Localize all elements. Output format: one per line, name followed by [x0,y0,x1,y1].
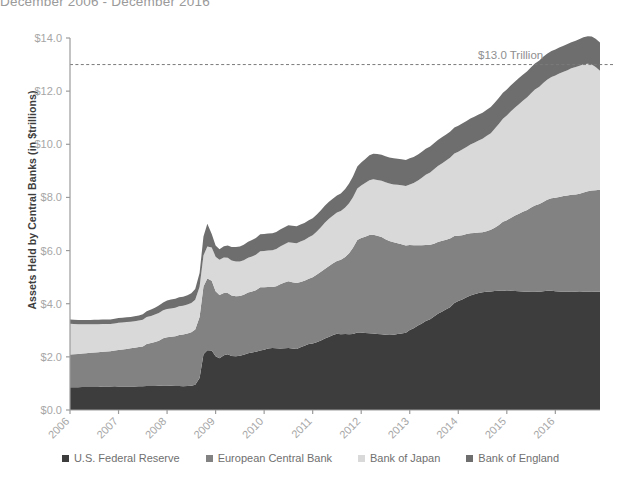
x-tick-label: 2006 [46,415,72,441]
legend-swatch-icon [466,455,473,462]
legend-item-3[interactable]: Bank of England [466,452,559,464]
x-tick-label: 2016 [531,415,557,441]
y-tick-label: $12.0 [34,85,62,97]
x-tick-label: 2015 [482,415,508,441]
legend-label: Bank of England [478,452,559,464]
y-tick-label: $10.0 [34,138,62,150]
y-tick-label: $0.0 [41,404,62,416]
x-tick-label: 2008 [143,415,169,441]
legend-label: Bank of Japan [370,452,440,464]
y-tick-label: $4.0 [41,298,62,310]
y-tick-label: $2.0 [41,351,62,363]
x-tick-label: 2013 [385,415,411,441]
x-tick-label: 2009 [191,415,217,441]
chart-legend: U.S. Federal ReserveEuropean Central Ban… [0,452,621,464]
legend-label: European Central Bank [218,452,332,464]
legend-item-1[interactable]: European Central Bank [206,452,332,464]
x-tick-label: 2011 [289,415,314,440]
y-tick-label: $6.0 [41,245,62,257]
y-tick-label: $8.0 [41,191,62,203]
x-tick-label: 2010 [240,415,266,441]
plot-area: $13.0 Trillion$0.0$2.0$4.0$6.0$8.0$10.0$… [0,0,621,448]
legend-item-2[interactable]: Bank of Japan [358,452,440,464]
annotation-label: $13.0 Trillion [478,49,543,61]
legend-label: U.S. Federal Reserve [74,452,180,464]
legend-item-0[interactable]: U.S. Federal Reserve [62,452,180,464]
legend-swatch-icon [358,455,365,462]
x-tick-label: 2014 [434,415,460,441]
x-tick-label: 2007 [94,415,120,441]
chart-root: December 2006 - December 2016 Assets Hel… [0,0,621,487]
legend-swatch-icon [206,455,213,462]
legend-swatch-icon [62,455,69,462]
stacked-area-chart: $13.0 Trillion$0.0$2.0$4.0$6.0$8.0$10.0$… [0,0,621,448]
x-tick-label: 2012 [337,415,363,441]
y-tick-label: $14.0 [34,32,62,44]
